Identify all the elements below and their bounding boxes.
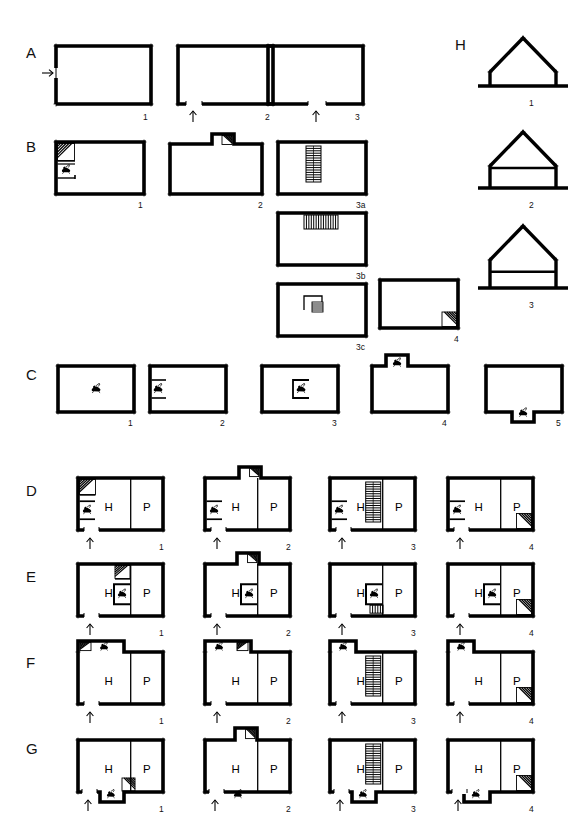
hearth-flame — [476, 789, 479, 792]
dog-leg-stair-icon — [304, 296, 323, 312]
winder-stair-icon — [80, 643, 91, 651]
row-label-D: D — [26, 482, 37, 499]
winder-stair-icon — [250, 469, 259, 477]
winder-stair-icon — [80, 480, 96, 495]
winder-stair-icon — [517, 688, 532, 703]
winder-stair-icon — [517, 776, 532, 791]
room-label-parlour: P — [270, 587, 278, 599]
hearth-spark — [370, 597, 378, 598]
door-gap — [84, 614, 99, 618]
section-H1-canvas — [472, 34, 583, 114]
entrance-arrow-icon — [337, 800, 344, 811]
plan-E1-canvas: HP — [66, 550, 185, 644]
entrance-arrow-icon — [457, 538, 464, 549]
plan-B4-canvas — [370, 270, 478, 348]
room-label-hall: H — [231, 763, 239, 775]
door-gap — [334, 790, 349, 794]
room-label-parlour: P — [513, 587, 521, 599]
straight-stair-icon — [366, 482, 381, 522]
hearth-flame — [523, 408, 526, 411]
hearth-blob — [297, 385, 306, 391]
plan-C5 — [476, 352, 583, 432]
hearth-spark — [62, 172, 70, 173]
plan-G3-canvas: HP — [318, 726, 437, 820]
hearth-blob — [453, 507, 461, 513]
room-label-parlour: P — [270, 675, 278, 687]
entrance-arrow-icon — [85, 800, 92, 811]
plan-E1: HP — [66, 550, 185, 644]
plan-E4-canvas: HP — [436, 550, 555, 644]
plan-B3c-canvas — [268, 274, 386, 354]
room-label-parlour: P — [395, 763, 403, 775]
perimeter-wall — [205, 728, 290, 792]
figure-number-C2: 2 — [220, 418, 225, 428]
plan-G4-canvas: HP — [436, 726, 555, 820]
plan-D3-canvas: HP — [318, 464, 437, 558]
hearth-flame — [158, 383, 161, 386]
hearth-blob — [339, 644, 347, 649]
room-label-parlour: P — [513, 501, 521, 513]
plan-D4-canvas: HP — [436, 464, 555, 558]
plan-E4: HP — [436, 550, 555, 644]
row-label-A: A — [26, 44, 36, 61]
section-H1 — [472, 34, 583, 114]
hearth-spark — [458, 649, 465, 650]
winder-stair-icon — [115, 566, 130, 579]
winder-stair-icon — [58, 144, 75, 161]
door-gap — [452, 790, 467, 794]
room-label-parlour: P — [143, 501, 151, 513]
straight-stair-icon — [366, 744, 381, 784]
room-label-hall: H — [474, 763, 482, 775]
figure-number-C3: 3 — [332, 418, 337, 428]
room-label-hall: H — [474, 587, 482, 599]
entrance-arrow-icon — [190, 111, 197, 122]
figure-number-H1: 1 — [529, 98, 534, 108]
figure-number-G2: 2 — [286, 804, 291, 814]
figure-number-H3: 3 — [529, 300, 534, 310]
winder-stair-icon — [122, 778, 135, 791]
door-gap — [211, 702, 226, 706]
room-label-hall: H — [356, 675, 364, 687]
plan-A1-canvas — [48, 36, 173, 128]
plan-B3b-canvas — [268, 203, 386, 283]
plan-C5-canvas — [476, 352, 583, 432]
hearth-icon — [472, 789, 480, 798]
perimeter-wall — [278, 142, 366, 194]
plan-C2 — [140, 352, 248, 432]
figure-number-A1: 1 — [143, 112, 148, 122]
stair-tread — [58, 144, 64, 150]
figure-number-E3: 3 — [411, 628, 416, 638]
winder-stair-icon — [237, 643, 248, 651]
entrance-arrow-icon — [42, 70, 53, 77]
hearth-spark — [154, 392, 162, 393]
hearth-flame — [249, 589, 252, 592]
row-label-B: B — [26, 138, 36, 155]
hearth-blob — [107, 791, 115, 796]
door-gap — [454, 528, 469, 532]
room-label-parlour: P — [395, 501, 403, 513]
figure-number-B1: 1 — [138, 200, 143, 210]
door-gap — [209, 790, 224, 794]
winder-stair-icon — [517, 600, 532, 615]
hearth-icon — [92, 383, 101, 392]
plan-G2: HP — [193, 726, 312, 820]
hearth-spark — [472, 797, 479, 798]
entrance-arrow-icon — [339, 712, 346, 723]
room-label-parlour: P — [395, 587, 403, 599]
door-gap — [211, 614, 226, 618]
perimeter-wall — [268, 46, 363, 104]
plan-G3: HP — [318, 726, 437, 820]
plan-F2: HP — [193, 638, 312, 732]
hearth-blob — [457, 644, 465, 649]
figure-number-E4: 4 — [529, 628, 534, 638]
hearth-flame — [339, 505, 342, 508]
hearth-blob — [472, 791, 480, 796]
door-gap — [336, 528, 351, 532]
row-label-C: C — [26, 366, 37, 383]
hearth-spark — [118, 597, 126, 598]
room-label-parlour: P — [270, 763, 278, 775]
hearth-blob — [335, 507, 343, 513]
hearth-blob — [359, 791, 367, 796]
hearth-blob — [519, 410, 527, 416]
perimeter-wall — [380, 280, 458, 328]
